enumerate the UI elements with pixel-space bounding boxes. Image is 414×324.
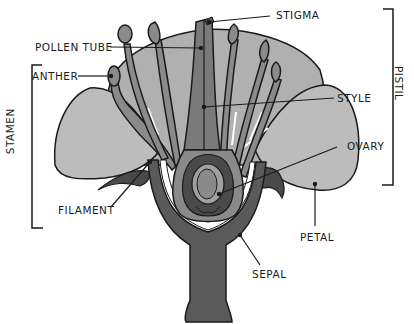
label-sepal: SEPAL	[252, 269, 287, 280]
pistil-bracket	[382, 9, 393, 185]
label-anther: ANTHER	[32, 71, 78, 82]
label-pollen-tube: POLLEN TUBE	[35, 42, 113, 53]
label-petal: PETAL	[300, 232, 334, 243]
flower-diagram: STIGMA POLLEN TUBE ANTHER STYLE OVARY FI…	[0, 0, 414, 324]
leader-stigma	[209, 16, 270, 22]
label-filament: FILAMENT	[58, 205, 114, 216]
label-ovary: OVARY	[347, 141, 384, 152]
stamen-bracket	[32, 65, 43, 228]
label-stigma: STIGMA	[276, 10, 320, 21]
label-stamen-group: STAMEN	[5, 108, 16, 154]
label-style: STYLE	[337, 93, 371, 104]
ovule	[197, 169, 217, 199]
label-pistil-group: PISTIL	[394, 66, 405, 100]
leader-sepal	[240, 235, 260, 265]
